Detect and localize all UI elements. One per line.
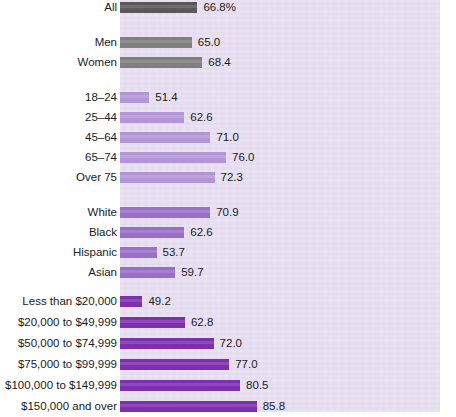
bar-fill (120, 227, 184, 238)
bar (120, 132, 210, 143)
bar-row: Black62.6 (0, 227, 456, 238)
bar-row: 18–2451.4 (0, 92, 456, 103)
bar (120, 267, 175, 278)
bar-fill (120, 317, 185, 328)
bar-chart: All66.8%Men65.0Women68.418–2451.425–4462… (0, 0, 456, 417)
bar (120, 247, 157, 258)
bar (120, 296, 142, 307)
bar-row: 45–6471.0 (0, 132, 456, 143)
bar-row: $50,000 to $74,99972.0 (0, 338, 456, 349)
bar-value-label: 59.7 (181, 265, 203, 279)
bar-value-label: 65.0 (198, 35, 220, 49)
bar-row-label: $50,000 to $74,999 (0, 336, 117, 350)
bar-fill (120, 152, 226, 163)
bar-fill (120, 247, 157, 258)
bar-row-label: 65–74 (0, 150, 117, 164)
bar-row-label: $150,000 and over (0, 399, 117, 413)
bar-fill (120, 296, 142, 307)
bar-value-label: 72.0 (220, 336, 242, 350)
bar-row: Men65.0 (0, 37, 456, 48)
bar-row: Asian59.7 (0, 267, 456, 278)
bar (120, 37, 192, 48)
bar (120, 207, 210, 218)
bar-row: $75,000 to $99,99977.0 (0, 359, 456, 370)
bar-value-label: 80.5 (246, 378, 268, 392)
bar-row-label: Hispanic (0, 245, 117, 259)
bar-row-label: 45–64 (0, 130, 117, 144)
bar-row: $20,000 to $49,99962.8 (0, 317, 456, 328)
bar-row-label: $100,000 to $149,999 (0, 378, 117, 392)
bar-fill (120, 338, 214, 349)
bar-value-label: 62.6 (190, 225, 212, 239)
bar-row: Over 7572.3 (0, 172, 456, 183)
bar-fill (120, 359, 229, 370)
bar-row: Women68.4 (0, 57, 456, 68)
bar-row: $150,000 and over85.8 (0, 401, 456, 412)
bar-value-label: 77.0 (235, 357, 257, 371)
bar-fill (120, 2, 197, 13)
bar (120, 2, 197, 13)
bar-fill (120, 207, 210, 218)
bar-value-label: 62.8 (191, 315, 213, 329)
bar-row-label: Men (0, 35, 117, 49)
bar-fill (120, 57, 202, 68)
bar-row-label: All (0, 0, 117, 14)
bar-row-label: Less than $20,000 (0, 294, 117, 308)
bar (120, 380, 240, 391)
bar (120, 338, 214, 349)
bar-fill (120, 172, 215, 183)
bar-row-label: Black (0, 225, 117, 239)
bar-value-label: 68.4 (208, 55, 230, 69)
bar-row: $100,000 to $149,99980.5 (0, 380, 456, 391)
bar-value-label: 51.4 (155, 90, 177, 104)
bar-value-label: 71.0 (216, 130, 238, 144)
bar-value-label: 66.8% (203, 0, 236, 14)
bar-row: Hispanic53.7 (0, 247, 456, 258)
bar-fill (120, 380, 240, 391)
bar (120, 152, 226, 163)
bar (120, 401, 257, 412)
bar-value-label: 72.3 (221, 170, 243, 184)
bar-fill (120, 37, 192, 48)
bar-row: All66.8% (0, 2, 456, 13)
bar-value-label: 76.0 (232, 150, 254, 164)
bar-fill (120, 112, 184, 123)
bar-row-label: 18–24 (0, 90, 117, 104)
bar (120, 227, 184, 238)
bar (120, 57, 202, 68)
bar (120, 172, 215, 183)
bar-fill (120, 92, 149, 103)
bar (120, 92, 149, 103)
bar-row-label: $75,000 to $99,999 (0, 357, 117, 371)
bar-value-label: 85.8 (263, 399, 285, 413)
bar-value-label: 62.6 (190, 110, 212, 124)
bar-fill (120, 401, 257, 412)
bar-value-label: 70.9 (216, 205, 238, 219)
bar-row-label: $20,000 to $49,999 (0, 315, 117, 329)
bar-row-label: Women (0, 55, 117, 69)
bar-value-label: 49.2 (148, 294, 170, 308)
bar-row: 65–7476.0 (0, 152, 456, 163)
bar (120, 359, 229, 370)
bar-row-label: White (0, 205, 117, 219)
bar-row: 25–4462.6 (0, 112, 456, 123)
bar-row: White70.9 (0, 207, 456, 218)
bar-row-label: Over 75 (0, 170, 117, 184)
bar (120, 112, 184, 123)
bar-row-label: 25–44 (0, 110, 117, 124)
bar-fill (120, 267, 175, 278)
bar-value-label: 53.7 (163, 245, 185, 259)
bar-row: Less than $20,00049.2 (0, 296, 456, 307)
bar-row-label: Asian (0, 265, 117, 279)
bar (120, 317, 185, 328)
bar-fill (120, 132, 210, 143)
